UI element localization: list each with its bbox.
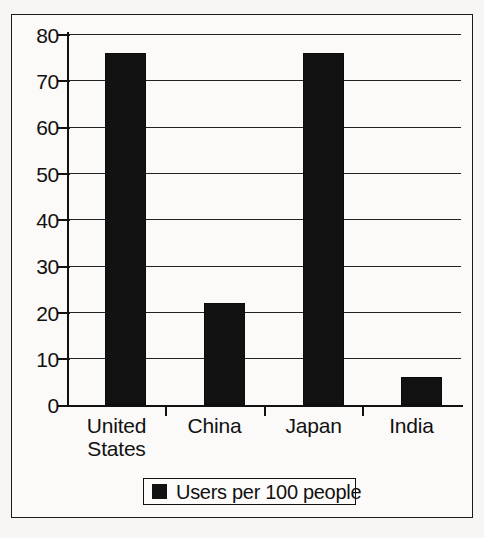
- x-axis-label-india: India: [362, 414, 461, 437]
- y-tick-label-50: 50: [15, 164, 59, 185]
- y-tick-label-30: 30: [15, 256, 59, 277]
- bar-japan[interactable]: [303, 53, 344, 405]
- bar-chart-figure: 80 70 60 50 40 30 20 10 0: [12, 15, 474, 519]
- legend[interactable]: Users per 100 people: [143, 478, 356, 505]
- figure-border: 80 70 60 50 40 30 20 10 0: [11, 14, 473, 518]
- y-tick-label-20: 20: [15, 303, 59, 324]
- y-axis-line: [67, 32, 69, 407]
- plot-area: [67, 34, 461, 405]
- y-tick-label-60: 60: [15, 117, 59, 138]
- y-tick-label-40: 40: [15, 210, 59, 231]
- x-axis-label-china: China: [165, 414, 264, 437]
- y-tick-label-80: 80: [15, 25, 59, 46]
- y-tick-label-70: 70: [15, 71, 59, 92]
- x-axis-label-line-2: States: [67, 437, 166, 460]
- y-tick-label-10: 10: [15, 349, 59, 370]
- x-axis-label-line-1: United: [87, 414, 147, 437]
- bar-india[interactable]: [401, 377, 442, 405]
- gridline-80: [67, 34, 461, 35]
- bar-united-states[interactable]: [105, 53, 146, 405]
- y-axis-labels: 80 70 60 50 40 30 20 10 0: [12, 15, 59, 519]
- x-axis-label-japan: Japan: [264, 414, 363, 437]
- y-tick-label-0: 0: [15, 395, 59, 416]
- legend-swatch-icon: [152, 484, 167, 499]
- chart-screenshot: 80 70 60 50 40 30 20 10 0: [0, 0, 484, 538]
- x-axis-label-united-states: United States: [67, 414, 166, 460]
- bar-china[interactable]: [204, 303, 245, 405]
- legend-label: Users per 100 people: [176, 482, 361, 502]
